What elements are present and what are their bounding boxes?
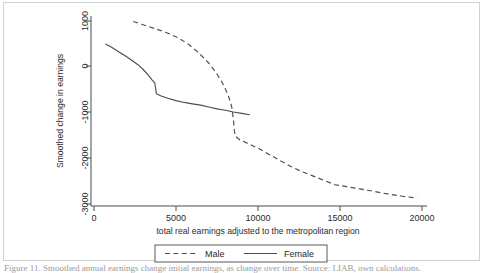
earnings-change-line-chart: 1000 0 -1000 -2000 -3000 Smoothed change… — [0, 0, 483, 273]
legend-label-male: Male — [205, 249, 225, 259]
y-tick-label-neg1000: -1000 — [80, 100, 90, 123]
x-tick-label-20000: 20000 — [409, 213, 434, 223]
y-tick-label-0: 0 — [80, 63, 90, 68]
series-line-male — [133, 21, 417, 198]
y-axis-title: Smoothed change in earnings — [55, 54, 65, 168]
x-tick-label-10000: 10000 — [245, 213, 270, 223]
legend-label-female: Female — [284, 249, 314, 259]
x-axis-title: total real earnings adjusted to the metr… — [156, 226, 359, 236]
figure-root: 1000 0 -1000 -2000 -3000 Smoothed change… — [0, 0, 483, 273]
x-axis-ticks — [94, 206, 422, 211]
chart-legend: Male Female — [155, 245, 327, 262]
figure-caption-strip: Figure 11. Smoothed annual earnings chan… — [4, 265, 474, 273]
y-tick-label-neg3000: -3000 — [80, 192, 90, 215]
x-tick-label-0: 0 — [91, 213, 96, 223]
x-tick-label-15000: 15000 — [327, 213, 352, 223]
y-tick-label-neg2000: -2000 — [80, 146, 90, 169]
y-tick-label-1000: 1000 — [80, 11, 90, 31]
x-tick-label-5000: 5000 — [166, 213, 186, 223]
series-line-female — [105, 44, 249, 115]
figure-caption: Figure 11. Smoothed annual earnings chan… — [4, 265, 474, 273]
